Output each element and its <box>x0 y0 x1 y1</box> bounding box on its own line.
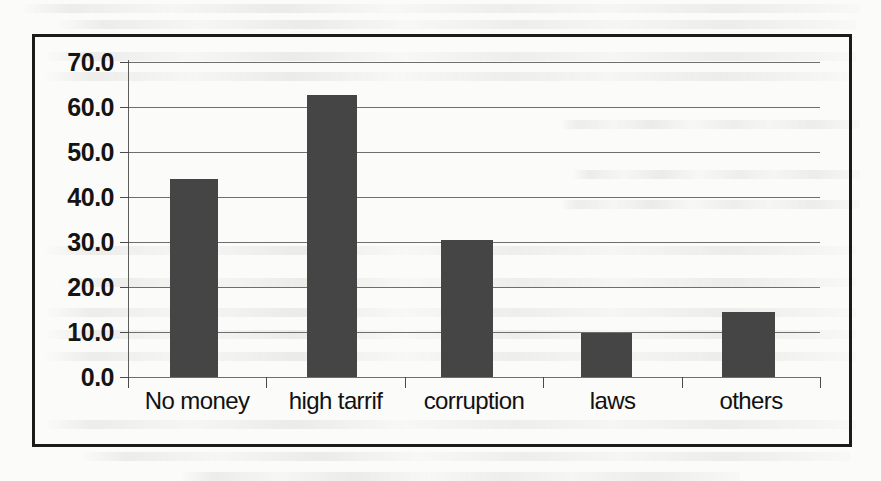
x-tick-4 <box>682 377 683 388</box>
x-tick-label-laws: laws <box>543 388 682 414</box>
x-tick-5 <box>820 377 821 388</box>
y-tick-70 <box>120 62 129 63</box>
y-tick-60 <box>120 107 129 108</box>
y-tick-label-30: 30.0 <box>28 230 114 255</box>
y-tick-20 <box>120 287 129 288</box>
y-tick-label-10: 10.0 <box>28 320 114 345</box>
axis-baseline-0 <box>128 377 820 378</box>
y-tick-label-70: 70.0 <box>28 50 114 75</box>
y-tick-30 <box>120 242 129 243</box>
y-tick-label-50: 50.0 <box>28 140 114 165</box>
x-tick-label-high-tarrif: high tarrif <box>266 388 405 414</box>
y-tick-10 <box>120 332 129 333</box>
bar-laws <box>581 333 632 377</box>
x-tick-label-others: others <box>682 388 820 414</box>
bar-no-money <box>170 179 218 377</box>
y-tick-40 <box>120 197 129 198</box>
x-tick-2 <box>405 377 406 388</box>
gridline-70 <box>128 62 820 63</box>
x-tick-label-no-money: No money <box>128 388 266 414</box>
y-tick-label-60: 60.0 <box>28 95 114 120</box>
gridline-60 <box>128 107 820 108</box>
y-tick-label-0: 0.0 <box>28 365 114 390</box>
x-tick-3 <box>543 377 544 388</box>
x-tick-1 <box>266 377 267 388</box>
x-tick-0 <box>128 377 129 388</box>
plot-area <box>128 62 820 377</box>
x-tick-label-corruption: corruption <box>405 388 543 414</box>
gridline-50 <box>128 152 820 153</box>
bar-high-tarrif <box>307 95 357 377</box>
y-tick-label-40: 40.0 <box>28 185 114 210</box>
y-tick-50 <box>120 152 129 153</box>
chart-page: 70.0 60.0 50.0 40.0 30.0 20.0 10.0 0.0 N… <box>0 0 881 481</box>
y-tick-label-20: 20.0 <box>28 275 114 300</box>
gridline-40 <box>128 197 820 198</box>
bar-others <box>722 312 775 377</box>
bar-corruption <box>441 240 493 377</box>
